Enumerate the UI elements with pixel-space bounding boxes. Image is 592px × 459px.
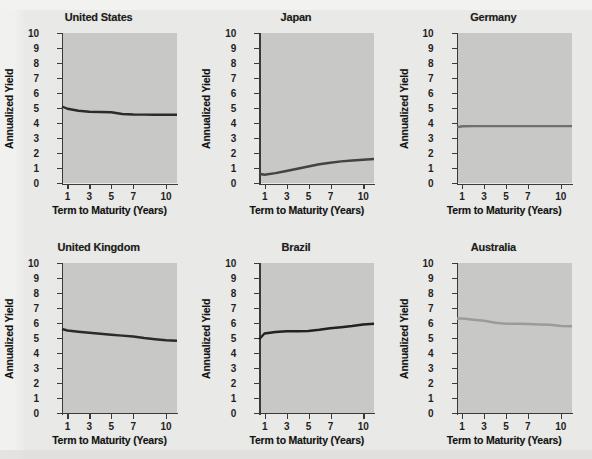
x-tick-label: 7 <box>525 421 531 432</box>
x-tick <box>363 184 364 189</box>
x-tick <box>462 184 463 189</box>
x-tick-label: 10 <box>160 191 171 202</box>
series-line <box>62 107 177 115</box>
x-axis-title: Term to Maturity (Years) <box>239 204 374 216</box>
x-tick <box>89 414 90 419</box>
x-tick <box>462 414 463 419</box>
y-tick-label: 6 <box>428 317 434 328</box>
x-tick-label: 3 <box>481 191 487 202</box>
x-axis-title: Term to Maturity (Years) <box>437 434 572 446</box>
y-tick-label: 2 <box>231 377 237 388</box>
x-axis-line <box>457 184 573 185</box>
chart-panel-united-kingdom: United KingdomAnnualized YieldTerm to Ma… <box>0 230 197 459</box>
x-tick-label: 1 <box>459 421 465 432</box>
y-tick-label: 6 <box>231 88 237 99</box>
y-tick-label: 0 <box>33 178 39 189</box>
chart-panel-australia: AustraliaAnnualized YieldTerm to Maturit… <box>395 230 592 459</box>
series-line <box>457 318 572 326</box>
yield-curve-series <box>259 33 374 183</box>
y-tick <box>254 183 259 184</box>
y-tick-label: 10 <box>423 28 434 39</box>
x-tick <box>506 414 507 419</box>
x-tick-label: 7 <box>130 191 136 202</box>
y-tick-label: 3 <box>428 362 434 373</box>
x-tick <box>528 414 529 419</box>
series-line <box>457 126 572 127</box>
x-tick-label: 10 <box>160 421 171 432</box>
yield-curve-series <box>62 263 177 413</box>
figure-canvas: United StatesAnnualized YieldTerm to Mat… <box>0 0 592 459</box>
y-tick-label: 4 <box>231 347 237 358</box>
y-tick-label: 6 <box>33 88 39 99</box>
panel-title: United Kingdom <box>0 241 197 253</box>
y-tick-label: 9 <box>428 272 434 283</box>
y-tick-label: 8 <box>33 58 39 69</box>
y-tick-label: 1 <box>33 392 39 403</box>
x-tick-label: 7 <box>328 191 334 202</box>
x-tick-label: 5 <box>503 191 509 202</box>
y-tick-label: 5 <box>231 103 237 114</box>
x-tick <box>265 184 266 189</box>
x-axis-title: Term to Maturity (Years) <box>437 204 572 216</box>
y-tick-label: 3 <box>231 133 237 144</box>
x-tick <box>287 184 288 189</box>
y-axis-title: Annualized Yield <box>2 33 16 185</box>
x-tick-label: 5 <box>306 191 312 202</box>
x-tick <box>133 184 134 189</box>
x-axis-line <box>62 184 178 185</box>
panel-title: Japan <box>197 11 394 23</box>
y-tick-label: 3 <box>33 362 39 373</box>
x-tick <box>111 184 112 189</box>
x-tick <box>363 414 364 419</box>
x-tick-label: 5 <box>109 421 115 432</box>
y-tick-label: 8 <box>231 58 237 69</box>
x-tick <box>484 414 485 419</box>
y-tick-label: 4 <box>231 118 237 129</box>
y-tick-label: 7 <box>231 73 237 84</box>
y-tick-label: 1 <box>33 163 39 174</box>
y-tick-label: 0 <box>231 178 237 189</box>
x-axis-line <box>62 413 178 414</box>
y-axis-title: Annualized Yield <box>397 33 411 185</box>
y-tick-label: 3 <box>231 362 237 373</box>
y-tick-label: 4 <box>428 347 434 358</box>
x-tick-label: 1 <box>65 421 71 432</box>
y-tick-label: 10 <box>28 257 39 268</box>
x-tick-label: 3 <box>284 421 290 432</box>
y-tick <box>57 183 62 184</box>
x-tick <box>67 184 68 189</box>
y-tick-label: 7 <box>428 73 434 84</box>
x-tick-label: 5 <box>306 421 312 432</box>
x-tick <box>89 184 90 189</box>
x-tick <box>561 184 562 189</box>
x-tick <box>484 184 485 189</box>
x-tick <box>528 184 529 189</box>
y-tick-label: 7 <box>33 302 39 313</box>
y-tick-label: 2 <box>33 148 39 159</box>
y-tick-label: 2 <box>428 148 434 159</box>
yield-curve-series <box>62 33 177 183</box>
x-tick <box>133 414 134 419</box>
x-axis-title: Term to Maturity (Years) <box>239 434 374 446</box>
y-tick <box>452 183 457 184</box>
x-tick <box>331 184 332 189</box>
y-tick-label: 1 <box>428 163 434 174</box>
y-tick <box>452 413 457 414</box>
panel-title: United States <box>0 11 197 23</box>
x-tick-label: 7 <box>525 191 531 202</box>
y-tick-label: 1 <box>428 392 434 403</box>
y-tick-label: 8 <box>428 287 434 298</box>
x-tick-label: 5 <box>109 191 115 202</box>
panel-title: Germany <box>395 11 592 23</box>
x-axis-line <box>259 413 375 414</box>
yield-curve-series <box>457 33 572 183</box>
chart-panel-japan: JapanAnnualized YieldTerm to Maturity (Y… <box>197 0 394 230</box>
x-tick <box>67 414 68 419</box>
x-tick-label: 10 <box>358 421 369 432</box>
x-tick <box>309 184 310 189</box>
x-tick <box>265 414 266 419</box>
x-tick-label: 1 <box>262 421 268 432</box>
plot-area: 012345678910135710 <box>239 33 374 185</box>
x-axis-title: Term to Maturity (Years) <box>42 204 177 216</box>
chart-panel-brazil: BrazilAnnualized YieldTerm to Maturity (… <box>197 230 394 459</box>
